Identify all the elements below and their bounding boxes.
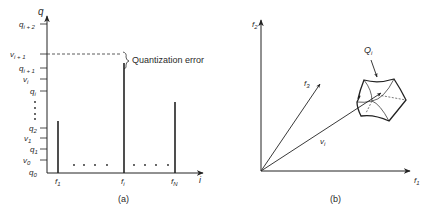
x-axis-label: i xyxy=(199,175,202,185)
quantization-error-label: Quantization error xyxy=(132,55,204,65)
y-tick-labels: qi + 2 vi + 1 qi + 1 vi qi q2 v1 q1 v0 q… xyxy=(10,20,38,178)
svg-text:q1: q1 xyxy=(30,145,38,155)
f3-axis xyxy=(261,84,320,171)
panel-b-vector-quantization: f2 f1 f3 vi Qi (b) xyxy=(252,20,420,204)
panel-b-caption: (b) xyxy=(330,194,341,204)
qi-label: Qi xyxy=(364,45,373,56)
y-axis-label: q xyxy=(38,6,44,17)
vi-vector xyxy=(261,93,381,171)
panel-a-caption: (a) xyxy=(118,194,129,204)
svg-text:qi: qi xyxy=(30,87,36,97)
svg-text:v1: v1 xyxy=(24,134,31,144)
svg-text:qi + 1: qi + 1 xyxy=(19,64,35,74)
svg-text:q2: q2 xyxy=(29,124,37,134)
svg-text:qi + 2: qi + 2 xyxy=(19,20,36,30)
svg-text:v0: v0 xyxy=(23,156,31,166)
svg-text:vi + 1: vi + 1 xyxy=(10,50,26,60)
svg-text:vi: vi xyxy=(23,75,29,85)
qi-pointer-arrow xyxy=(371,60,377,77)
f1-label: f1 xyxy=(414,176,420,186)
bar-label-fN: fN xyxy=(171,177,178,187)
y-ticks xyxy=(40,24,47,160)
vi-label: vi xyxy=(320,137,326,147)
bar-label-fi: fi xyxy=(121,177,125,187)
svg-text:q0: q0 xyxy=(29,168,37,178)
f3-label: f3 xyxy=(304,79,310,89)
f2-label: f2 xyxy=(252,20,258,30)
quantization-diagram: q i qi + 2 vi + 1 qi + 1 vi qi q2 v1 q1 … xyxy=(0,0,431,215)
horizontal-ellipsis-right xyxy=(133,164,169,166)
panel-a-scalar-quantization: q i qi + 2 vi + 1 qi + 1 vi qi q2 v1 q1 … xyxy=(10,6,204,204)
vertical-ellipsis xyxy=(34,101,36,120)
bar-label-f1: f1 xyxy=(55,177,61,187)
quantization-cell-qi xyxy=(357,79,406,121)
horizontal-ellipsis-left xyxy=(73,164,108,166)
